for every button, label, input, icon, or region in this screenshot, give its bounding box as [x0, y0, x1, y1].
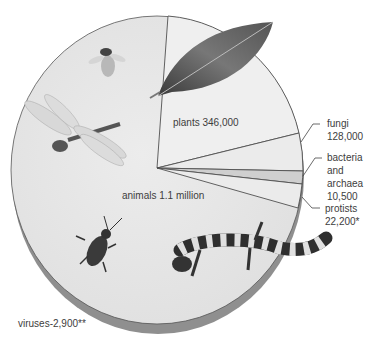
label-fungi-value: 128,000 — [327, 131, 363, 144]
label-bacteria-value: 10,500 — [327, 191, 358, 204]
label-animals: animals 1.1 million — [122, 190, 204, 203]
leader-line-protists — [302, 197, 320, 208]
label-plants: plants 346,000 — [173, 117, 239, 130]
pie-chart — [0, 0, 379, 344]
label-bacteria-name-3: archaea — [327, 178, 363, 191]
leader-line-bacteria — [303, 158, 322, 176]
leader-line-fungi — [301, 124, 320, 142]
label-bacteria-name-1: bacteria — [327, 152, 363, 165]
label-viruses: viruses-2,900** — [18, 318, 86, 331]
label-protists-name: protists — [325, 203, 357, 216]
label-fungi-name: fungi — [327, 118, 349, 131]
label-protists-value: 22,200* — [325, 216, 359, 229]
label-bacteria-name-2: and — [327, 165, 344, 178]
